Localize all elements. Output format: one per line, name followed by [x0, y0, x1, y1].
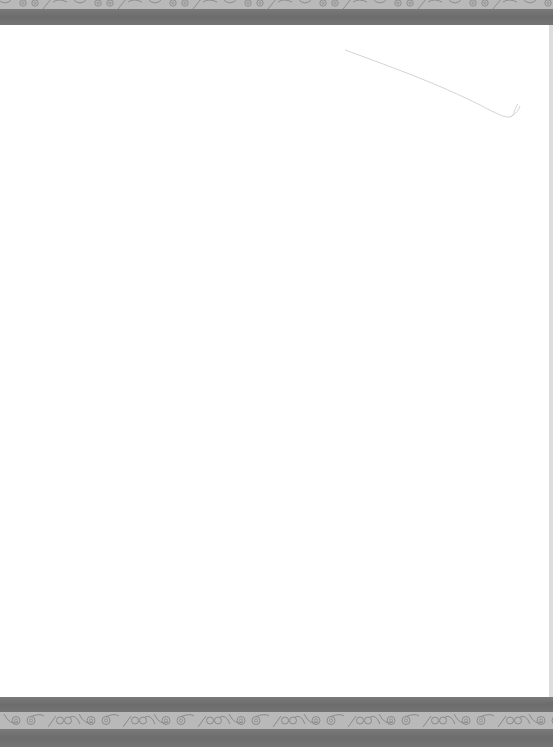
bottom-dark-band-upper [0, 697, 553, 712]
top-pattern-strip [0, 0, 553, 9]
spiral-wave-border-icon [0, 712, 553, 729]
bottom-dark-band-lower [0, 729, 553, 747]
page-edge-shadow [549, 25, 553, 697]
top-dark-band [0, 9, 553, 25]
bottom-pattern-strip [0, 712, 553, 729]
pencil-stroke-decoration [0, 0, 553, 747]
spiral-wave-border-icon [0, 0, 553, 9]
